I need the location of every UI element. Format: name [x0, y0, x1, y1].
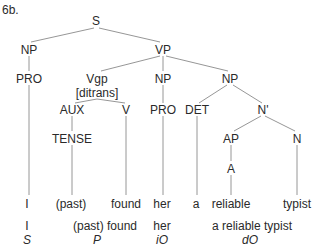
- edge-np-nbar: [233, 85, 262, 103]
- tree-nodes: S NP VP PRO Vgp [ditrans] NP NP AUX V PR…: [16, 14, 301, 176]
- subject-words: I: [25, 219, 28, 233]
- node-nbar: N': [258, 103, 269, 117]
- node-pro-indirect: PRO: [150, 103, 176, 117]
- leaf-typist: typist: [283, 197, 312, 211]
- edge-nbar-ap: [234, 116, 261, 131]
- node-pro-subject: PRO: [16, 72, 42, 86]
- node-tense: TENSE: [52, 132, 92, 146]
- node-np-subject: NP: [21, 43, 38, 57]
- direct-object-label: dO: [242, 233, 258, 247]
- node-vp: VP: [155, 43, 171, 57]
- example-label: 6b.: [2, 3, 19, 17]
- subject-label: S: [23, 233, 31, 247]
- leaf-a: a: [193, 197, 200, 211]
- predicate-label: P: [93, 233, 101, 247]
- leaf-past: (past): [56, 197, 87, 211]
- direct-object-words: a reliable typist: [212, 219, 293, 233]
- indirect-object-label: iO: [156, 233, 168, 247]
- node-np-indirect: NP: [155, 72, 172, 86]
- syntax-tree-diagram: 6b. S NP VP PRO Vgp [ditrans] NP NP AUX …: [0, 0, 316, 251]
- edge-s-np: [31, 28, 94, 42]
- node-det: DET: [185, 103, 210, 117]
- node-ap: AP: [223, 132, 239, 146]
- tree-leaves: I (past) found her a reliable typist: [25, 197, 311, 211]
- edge-vp-np-do: [166, 56, 228, 71]
- node-n: N: [293, 132, 302, 146]
- node-vgp-feature: [ditrans]: [76, 86, 119, 100]
- leaf-i: I: [25, 197, 28, 211]
- node-vgp: Vgp: [86, 72, 108, 86]
- node-aux: AUX: [60, 103, 85, 117]
- edge-np-det: [199, 85, 227, 103]
- node-a: A: [227, 162, 235, 176]
- edge-s-vp: [99, 28, 160, 42]
- node-s: S: [92, 14, 100, 28]
- leaf-reliable: reliable: [212, 197, 251, 211]
- edge-nbar-n: [265, 116, 295, 131]
- leaf-found: found: [111, 197, 141, 211]
- leaf-her: her: [153, 197, 170, 211]
- node-v: V: [122, 103, 130, 117]
- function-row: I S (past) found P her iO a reliable typ…: [23, 219, 293, 247]
- edge-vp-vgp: [101, 56, 160, 71]
- predicate-words: (past) found: [73, 219, 137, 233]
- node-np-direct: NP: [222, 72, 239, 86]
- indirect-object-words: her: [153, 219, 170, 233]
